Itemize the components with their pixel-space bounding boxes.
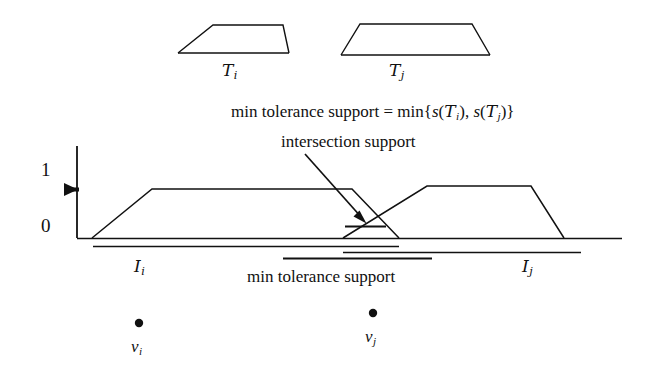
formula-tolerance-2: T [486, 101, 497, 121]
vertex-dot-i [135, 319, 143, 327]
fuzzy-tolerance-figure: Ti Tj min tolerance support = min{s(Ti),… [0, 0, 660, 378]
tolerance-label-j-base: T [389, 60, 400, 80]
tolerance-label-j: Tj [389, 62, 404, 82]
intersection-support-label: intersection support [281, 133, 416, 150]
interval-label-i-sub: i [141, 265, 145, 278]
interval-label-j: Ij [522, 258, 533, 278]
formula-rhs-close: } [506, 102, 514, 121]
vertex-label-i-sub: i [139, 345, 143, 357]
formula-tolerance-1: T [444, 101, 455, 121]
y-axis-label-one: 1 [41, 160, 51, 179]
vertex-label-j-base: v [365, 327, 373, 346]
tolerance-trapezoid-i-shape [178, 25, 289, 53]
interval-label-j-base: I [522, 256, 529, 276]
interval-label-i: Ii [134, 258, 145, 278]
vertex-dot-j [369, 309, 377, 317]
tolerance-trapezoid-j-shape [341, 24, 490, 55]
figure-vector-layer [0, 0, 660, 378]
vertex-label-i: vi [131, 338, 142, 358]
min-tolerance-support-formula: min tolerance support = min{s(Ti), s(Tj)… [231, 103, 515, 123]
y-axis-label-zero: 0 [41, 216, 51, 235]
membership-curve-j [343, 186, 564, 238]
tolerance-label-i-base: T [222, 60, 233, 80]
vertex-label-j: vj [365, 328, 376, 348]
interval-label-j-sub: j [529, 265, 533, 278]
vertex-label-i-base: v [131, 337, 139, 356]
formula-rhs-open: min{ [397, 102, 432, 121]
tolerance-label-j-sub: j [400, 69, 404, 82]
formula-equals: = [379, 102, 397, 121]
membership-curve-i [92, 189, 399, 238]
vertex-label-j-sub: j [373, 335, 377, 347]
interval-label-i-base: I [134, 256, 141, 276]
tolerance-label-i-sub: i [233, 69, 237, 82]
min-tolerance-support-label: min tolerance support [247, 268, 395, 285]
tolerance-label-i: Ti [222, 62, 237, 82]
formula-lhs: min tolerance support [231, 102, 379, 121]
formula-s-1: s [432, 102, 439, 121]
